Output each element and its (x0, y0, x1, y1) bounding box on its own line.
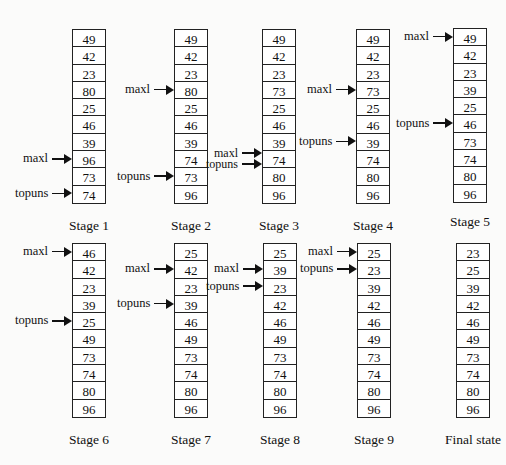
array-cell: 96 (175, 400, 207, 417)
array-cell: 42 (358, 296, 390, 313)
array-cell: 49 (357, 30, 389, 47)
array-cell: 96 (73, 151, 105, 168)
stage-label: Stage 2 (171, 218, 211, 234)
array-cell: 42 (457, 296, 489, 313)
arrow-right-icon (349, 247, 357, 257)
stage-label: Final state (445, 432, 501, 448)
maxl-pointer: maxl (125, 261, 174, 276)
stage-label: Stage 4 (353, 218, 393, 234)
array-cell: 80 (264, 382, 296, 399)
pointer-label: maxl (23, 244, 48, 259)
pointer-label: topuns (15, 186, 48, 201)
arrow-right-icon (64, 154, 72, 164)
pointer-label: maxl (125, 82, 150, 97)
stage-array: 23253942464973748096 (456, 243, 490, 418)
stage-label: Stage 7 (171, 432, 211, 448)
topuns-pointer: topuns (117, 296, 174, 311)
array-cell: 25 (264, 244, 296, 261)
array-cell: 73 (454, 133, 486, 150)
array-cell: 39 (263, 134, 295, 151)
arrow-right-icon (166, 171, 174, 181)
stage-label: Stage 8 (260, 432, 300, 448)
pointer-label: topuns (396, 116, 429, 131)
pointer-label: maxl (23, 151, 48, 166)
array-cell: 73 (358, 348, 390, 365)
array-cell: 23 (264, 279, 296, 296)
array-cell: 42 (263, 47, 295, 64)
array-cell: 39 (73, 134, 105, 151)
array-cell: 39 (175, 296, 207, 313)
array-cell: 80 (454, 167, 486, 184)
array-cell: 73 (263, 82, 295, 99)
arrow-right-icon (255, 264, 263, 274)
array-cell: 42 (264, 296, 296, 313)
stage-label: Stage 6 (69, 432, 109, 448)
maxl-pointer: maxl (23, 151, 72, 166)
array-cell: 96 (358, 400, 390, 417)
array-cell: 73 (357, 82, 389, 99)
arrow-shaft (154, 89, 166, 91)
array-cell: 73 (73, 168, 105, 185)
topuns-pointer: topuns (299, 134, 356, 149)
array-cell: 80 (357, 168, 389, 185)
stage-array: 49422380254639967374 (72, 29, 106, 204)
array-cell: 96 (454, 185, 486, 202)
arrow-right-icon (348, 85, 356, 95)
maxl-pointer: maxl (214, 261, 263, 276)
array-cell: 80 (175, 82, 207, 99)
array-cell: 80 (175, 382, 207, 399)
array-cell: 80 (457, 382, 489, 399)
arrow-shaft (433, 122, 445, 124)
arrow-shaft (154, 175, 166, 177)
arrow-right-icon (254, 159, 262, 169)
arrow-right-icon (348, 136, 356, 146)
topuns-pointer: topuns (117, 169, 174, 184)
array-cell: 25 (73, 313, 105, 330)
array-cell: 39 (358, 279, 390, 296)
stage-label: Stage 3 (259, 218, 299, 234)
topuns-pointer: topuns (206, 279, 263, 294)
array-cell: 23 (358, 261, 390, 278)
array-cell: 74 (175, 151, 207, 168)
array-cell: 49 (264, 330, 296, 347)
arrow-right-icon (445, 118, 453, 128)
array-cell: 39 (457, 279, 489, 296)
array-cell: 74 (175, 365, 207, 382)
arrow-right-icon (255, 281, 263, 291)
pointer-label: topuns (117, 296, 150, 311)
arrow-shaft (52, 320, 64, 322)
maxl-pointer: maxl (308, 244, 357, 259)
stage-array: 46422339254973748096 (72, 243, 106, 418)
array-cell: 49 (175, 330, 207, 347)
array-cell: 23 (73, 65, 105, 82)
array-cell: 23 (73, 279, 105, 296)
array-cell: 39 (454, 81, 486, 98)
array-cell: 42 (175, 47, 207, 64)
stage-array: 25392342464973748096 (263, 243, 297, 418)
arrow-right-icon (166, 85, 174, 95)
array-cell: 39 (175, 134, 207, 151)
stage-array: 49422380254639747396 (174, 29, 208, 204)
array-cell: 74 (73, 186, 105, 203)
arrow-right-icon (64, 188, 72, 198)
arrow-shaft (337, 268, 349, 270)
arrow-shaft (337, 251, 349, 253)
array-cell: 80 (73, 82, 105, 99)
array-cell: 25 (457, 261, 489, 278)
array-cell: 46 (263, 116, 295, 133)
array-cell: 74 (73, 365, 105, 382)
array-cell: 25 (175, 244, 207, 261)
maxl-pointer: maxl (23, 244, 72, 259)
arrow-shaft (336, 89, 348, 91)
array-cell: 74 (263, 151, 295, 168)
array-cell: 73 (175, 168, 207, 185)
maxl-pointer: maxl (404, 29, 453, 44)
array-cell: 46 (73, 116, 105, 133)
maxl-pointer: maxl (125, 82, 174, 97)
array-cell: 73 (175, 348, 207, 365)
array-cell: 46 (457, 313, 489, 330)
arrow-shaft (433, 36, 445, 38)
pointer-label: maxl (307, 82, 332, 97)
pointer-label: topuns (299, 134, 332, 149)
array-cell: 96 (263, 186, 295, 203)
